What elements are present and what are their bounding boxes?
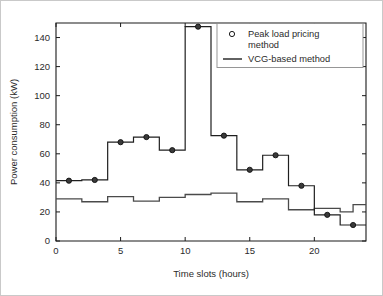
y-tick-label: 0 xyxy=(45,235,50,246)
chart-legend: Peak load pricing method VCG-based metho… xyxy=(217,24,363,68)
x-tick-label: 20 xyxy=(309,245,320,256)
data-point-marker xyxy=(92,177,97,182)
data-point-marker xyxy=(273,153,278,158)
legend-label-peak-line1: Peak load pricing xyxy=(248,29,319,39)
y-tick-label: 140 xyxy=(34,32,50,43)
x-tick-label: 0 xyxy=(53,245,58,256)
data-point-marker xyxy=(325,212,330,217)
data-point-marker xyxy=(195,24,200,29)
x-axis-label: Time slots (hours) xyxy=(173,268,249,279)
data-point-marker xyxy=(221,133,226,138)
chart-svg: 05101520 020406080100120140 Time slots (… xyxy=(1,1,383,296)
data-point-marker xyxy=(118,140,123,145)
y-tick-label: 20 xyxy=(39,206,50,217)
data-point-marker xyxy=(144,134,149,139)
y-tick-label: 80 xyxy=(39,119,50,130)
data-point-marker xyxy=(350,222,355,227)
x-tick-label: 10 xyxy=(180,245,191,256)
data-point-marker xyxy=(66,178,71,183)
legend-label-vcg: VCG-based method xyxy=(248,54,330,64)
x-axis-tick-labels: 05101520 xyxy=(53,245,319,256)
y-tick-label: 100 xyxy=(34,90,50,101)
data-point-marker xyxy=(170,148,175,153)
y-axis-label: Power consumption (kW) xyxy=(8,79,19,185)
y-tick-label: 40 xyxy=(39,177,50,188)
legend-label-peak-line2: method xyxy=(248,40,279,50)
x-tick-label: 5 xyxy=(118,245,123,256)
y-tick-label: 60 xyxy=(39,148,50,159)
y-tick-label: 120 xyxy=(34,61,50,72)
data-point-marker xyxy=(247,167,252,172)
data-point-marker xyxy=(299,183,304,188)
y-axis-tick-labels: 020406080100120140 xyxy=(34,32,50,246)
chart-figure: 05101520 020406080100120140 Time slots (… xyxy=(0,0,383,296)
x-tick-label: 15 xyxy=(244,245,255,256)
